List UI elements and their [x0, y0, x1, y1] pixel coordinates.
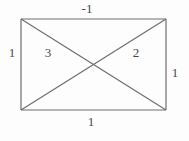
- right-region-label: 2: [133, 46, 140, 59]
- diagram-canvas: [0, 0, 189, 141]
- geometry-diagram-figure: -1 1 1 1 3 2: [0, 0, 189, 141]
- top-edge-label: -1: [82, 2, 93, 15]
- left-edge-label: 1: [9, 46, 16, 59]
- left-region-label: 3: [45, 46, 52, 59]
- bottom-edge-label: 1: [88, 115, 95, 128]
- right-edge-label: 1: [172, 66, 179, 79]
